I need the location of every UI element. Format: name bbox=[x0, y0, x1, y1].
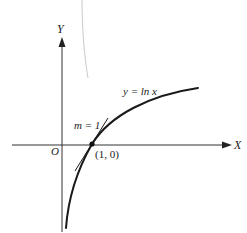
y-axis-arrow-icon bbox=[59, 37, 66, 47]
ln-curve bbox=[66, 88, 198, 228]
x-axis-label: X bbox=[233, 138, 242, 152]
ln-graph-diagram: X Y O (1, 0) m = 1 y = ln x bbox=[0, 0, 247, 233]
x-axis: X bbox=[12, 138, 242, 152]
y-axis: Y bbox=[57, 22, 66, 232]
point-marker bbox=[89, 141, 94, 146]
curve-label: y = ln x bbox=[122, 85, 157, 97]
tangent-slope-label: m = 1 bbox=[74, 119, 100, 131]
x-axis-arrow-icon bbox=[222, 142, 232, 149]
point-label: (1, 0) bbox=[95, 148, 119, 161]
origin-label: O bbox=[51, 145, 59, 157]
scan-artifact-line bbox=[82, 0, 88, 78]
y-axis-label: Y bbox=[57, 22, 65, 36]
